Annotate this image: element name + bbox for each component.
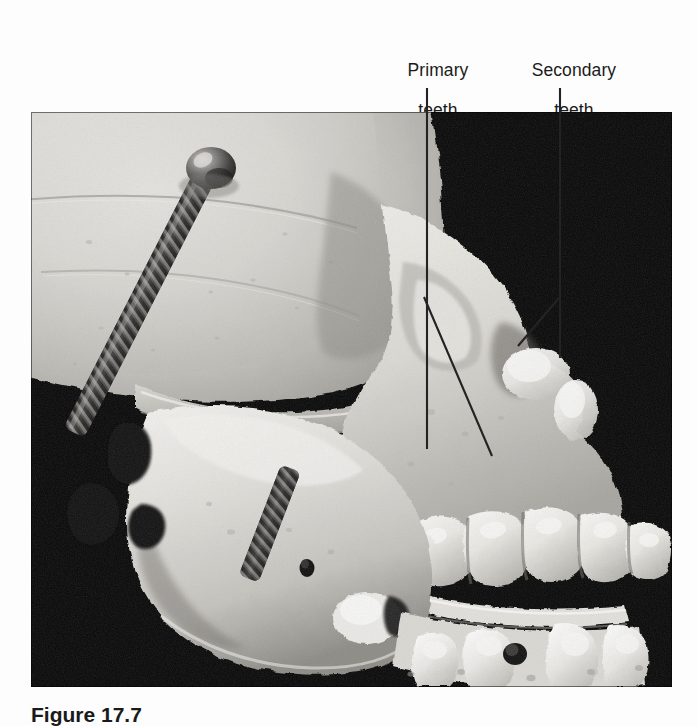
figure-caption-text: Figure 17.7 — [31, 704, 631, 726]
figure-caption: Figure 17.7 — [31, 704, 631, 726]
skull-photograph — [31, 112, 672, 687]
skull-photo-graphic — [31, 112, 672, 687]
callout-primary-line1: Primary — [407, 60, 468, 80]
film-grain — [31, 112, 672, 687]
figure-container: Primary teeth Secondary teeth — [0, 0, 698, 726]
callout-secondary-line1: Secondary — [532, 60, 617, 80]
